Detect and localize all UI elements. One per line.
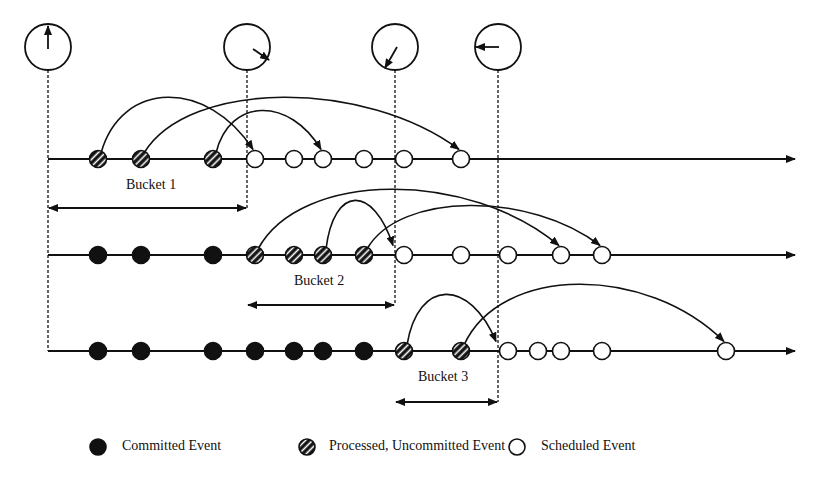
committed-event-icon	[286, 343, 303, 360]
processed-event-icon	[396, 343, 413, 360]
processed-event-icon	[315, 247, 332, 264]
committed-event-icon	[133, 343, 150, 360]
committed-event-icon	[356, 343, 373, 360]
scheduling-arc	[367, 205, 600, 249]
bucket-2-label: Bucket 2	[294, 273, 344, 289]
clock-face	[372, 24, 418, 70]
bucket-3-label: Bucket 3	[418, 369, 468, 385]
scheduling-arc	[326, 200, 393, 249]
scheduled-event-icon	[453, 247, 470, 264]
scheduling-arc	[216, 110, 321, 153]
scheduled-event-icon	[530, 343, 547, 360]
clock-icon	[25, 24, 71, 70]
scheduled-event-icon	[356, 151, 373, 168]
scheduled-event-icon	[396, 247, 413, 264]
clocks	[25, 24, 521, 70]
legend-scheduled-label: Scheduled Event	[541, 438, 635, 454]
processed-event-icon	[205, 151, 222, 168]
scheduled-event-icon	[594, 343, 611, 360]
scheduling-arc	[258, 189, 559, 249]
processed-event-icon	[299, 439, 315, 455]
scheduled-event-icon	[396, 151, 413, 168]
scheduling-arc	[464, 284, 724, 345]
scheduling-arc	[407, 294, 496, 345]
legend-committed-label: Committed Event	[122, 438, 221, 454]
committed-event-icon	[205, 343, 222, 360]
scheduled-event-icon	[509, 439, 525, 455]
committed-event-icon	[247, 343, 264, 360]
processed-event-icon	[90, 151, 107, 168]
committed-event-icon	[315, 343, 332, 360]
committed-event-icon	[90, 439, 106, 455]
scheduling-arcs	[101, 97, 724, 345]
legend-processed-label: Processed, Uncommitted Event	[329, 438, 505, 454]
committed-event-icon	[90, 247, 107, 264]
clock-face	[224, 24, 270, 70]
clock-icon	[475, 24, 521, 70]
scheduled-event-icon	[553, 247, 570, 264]
processed-event-icon	[356, 247, 373, 264]
clock-icon	[372, 24, 418, 70]
committed-event-icon	[90, 343, 107, 360]
scheduled-event-icon	[453, 151, 470, 168]
scheduled-event-icon	[553, 343, 570, 360]
processed-event-icon	[133, 151, 150, 168]
scheduled-event-icon	[500, 343, 517, 360]
scheduled-event-icon	[500, 247, 517, 264]
event-bucket-diagram	[0, 0, 822, 484]
time-marker-lines	[48, 70, 498, 402]
processed-event-icon	[247, 247, 264, 264]
committed-event-icon	[133, 247, 150, 264]
scheduled-event-icon	[286, 151, 303, 168]
processed-event-icon	[286, 247, 303, 264]
committed-event-icon	[205, 247, 222, 264]
scheduled-event-icon	[247, 151, 264, 168]
clock-icon	[224, 24, 270, 70]
scheduled-event-icon	[594, 247, 611, 264]
processed-event-icon	[453, 343, 470, 360]
bucket-1-label: Bucket 1	[126, 177, 176, 193]
scheduled-event-icon	[718, 343, 735, 360]
scheduled-event-icon	[315, 151, 332, 168]
